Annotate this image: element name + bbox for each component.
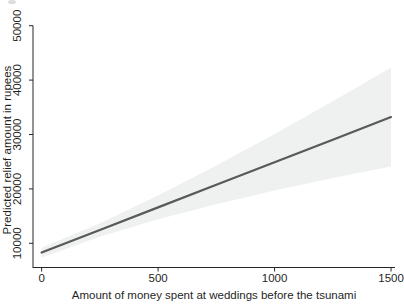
regression-figure: 0500100015001000020000300004000050000 Pr…: [0, 0, 404, 306]
x-axis-title: Amount of money spent at weddings before…: [33, 289, 395, 301]
x-tick-label: 1500: [378, 272, 404, 284]
fit-line: [42, 117, 391, 252]
scan-artifact: [8, 0, 16, 4]
y-tick-label: 50000: [11, 10, 23, 42]
y-axis-title: Predicted relief amount in rupees: [1, 44, 13, 256]
plot-svg: 0500100015001000020000300004000050000: [0, 0, 404, 306]
x-tick-label: 1000: [262, 272, 288, 284]
x-tick-label: 500: [148, 272, 167, 284]
confidence-band: [42, 68, 391, 258]
x-tick-label: 0: [38, 272, 44, 284]
